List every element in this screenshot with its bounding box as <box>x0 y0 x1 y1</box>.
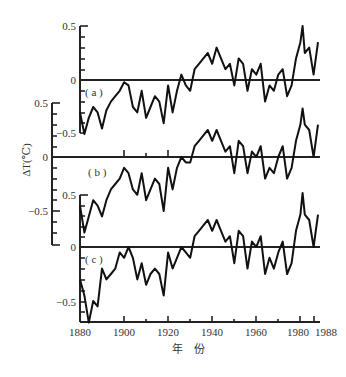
x-tick-1900: 1900 <box>113 326 136 338</box>
x-axis: 1880 1900 1920 1940 1960 1980 1988 年 份 <box>69 316 338 355</box>
panel-a-axes: 0.5 0 −0.5 ( a ) <box>56 20 320 139</box>
x-tick-1980: 1980 <box>287 326 310 338</box>
x-tick-1960: 1960 <box>245 326 268 338</box>
panel-c-tick-0.5: 0.5 <box>62 189 76 201</box>
x-tick-1988: 1988 <box>315 326 338 338</box>
panel-c-tick-0: 0 <box>71 241 77 253</box>
x-tick-1940: 1940 <box>201 326 224 338</box>
x-tick-1920: 1920 <box>157 326 180 338</box>
panel-b-tick-0.5: 0.5 <box>34 97 48 109</box>
panel-a-label: ( a ) <box>85 86 103 99</box>
series-b-line <box>80 108 318 232</box>
panel-c-tick-neg0.5: −0.5 <box>56 296 76 308</box>
panel-b-tick-0: 0 <box>43 151 49 163</box>
panel-b-tick-neg0.5: −0.5 <box>28 205 48 217</box>
panel-c-label: ( c ) <box>85 253 103 266</box>
panel-a-tick-neg0.5: −0.5 <box>56 127 76 139</box>
temperature-anomaly-chart: 0.5 0 −0.5 ( a ) 0.5 0 −0.5 ( b ) <box>0 0 346 377</box>
series-c-line <box>80 193 318 323</box>
x-axis-label: 年 份 <box>172 342 205 355</box>
y-axis-label: ΔT(℃) <box>20 143 33 177</box>
x-tick-1880: 1880 <box>69 326 92 338</box>
panel-b-label: ( b ) <box>88 166 107 179</box>
panel-a-tick-0.5: 0.5 <box>62 20 76 32</box>
panel-b-axes: 0.5 0 −0.5 ( b ) <box>28 97 320 245</box>
panel-a-tick-0: 0 <box>71 74 77 86</box>
